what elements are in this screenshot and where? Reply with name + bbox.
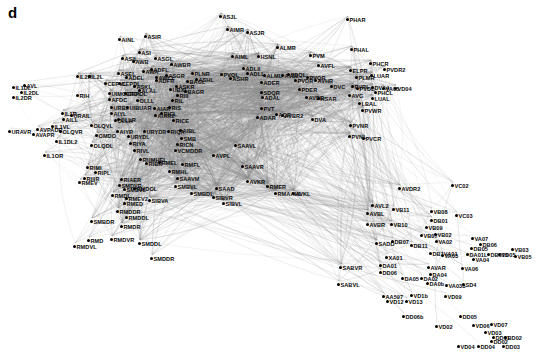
node-label: IL1OR [47, 154, 64, 160]
graph-node[interactable]: AVBR [366, 217, 385, 233]
graph-node[interactable]: HSAR [317, 91, 337, 107]
node-label: SABVL [341, 283, 360, 289]
graph-node[interactable]: AVDR2 [398, 181, 420, 197]
node-label: SAAVR [245, 165, 264, 171]
node-label: RMDR [124, 225, 141, 231]
graph-node[interactable]: RMDR [120, 219, 140, 235]
graph-node[interactable]: ASIR [144, 29, 161, 45]
node-label: DVA [315, 118, 327, 124]
graph-node[interactable]: SABVR [339, 260, 362, 276]
node-label: SMDDL [142, 242, 162, 248]
graph-node[interactable]: DD06 [379, 265, 397, 281]
node-label: SMBDR [94, 220, 115, 226]
node-layer: ASJLAIMRASJRPHARAINLASIRALMRPVMPHALAIMLH… [0, 0, 539, 352]
graph-node[interactable]: RMHL [168, 164, 188, 180]
graph-node[interactable]: IL1OR [43, 148, 63, 164]
node-label: AVBR [370, 223, 386, 229]
graph-node[interactable]: DD06b [402, 309, 423, 325]
node-label: SIBVA [152, 199, 169, 205]
graph-node[interactable]: ASHR [229, 71, 249, 87]
graph-node[interactable]: PVWR [361, 103, 381, 119]
node-label: DD06b [406, 315, 424, 321]
graph-node[interactable]: ALMR [276, 40, 296, 56]
graph-node[interactable]: VD12 [386, 294, 404, 310]
node-label: URAIL [74, 114, 91, 120]
graph-node[interactable]: SIBVA [148, 193, 168, 209]
node-label: SABVR [343, 266, 363, 272]
graph-node[interactable]: ADAR [256, 110, 276, 126]
node-label: RMD [91, 239, 104, 245]
graph-node[interactable]: SAAVL [234, 138, 256, 154]
graph-node[interactable]: SMBDR [90, 214, 114, 230]
graph-node[interactable]: VC03 [455, 208, 473, 224]
graph-node[interactable]: VC02 [451, 178, 469, 194]
node-label: VC02 [455, 184, 469, 190]
graph-node[interactable]: DVA [311, 112, 326, 128]
graph-node[interactable]: SD4 [462, 277, 477, 293]
graph-node[interactable]: SIBVL [222, 196, 242, 212]
graph-node[interactable]: SABVL [337, 277, 360, 293]
node-label: VB10 [394, 223, 408, 229]
node-label: SAAVL [238, 144, 257, 150]
node-label: PVCR [366, 137, 382, 143]
graph-node[interactable]: VD02 [435, 319, 453, 335]
graph-node[interactable]: PHAR [346, 12, 366, 28]
graph-node[interactable]: VB05 [514, 249, 532, 265]
node-label: IL2L [92, 75, 104, 81]
graph-node[interactable]: AQR [275, 107, 291, 123]
graph-node[interactable]: BAGR [184, 84, 204, 100]
node-label: DA05 [405, 277, 420, 283]
graph-node[interactable]: SDQL [287, 67, 306, 83]
graph-node[interactable]: RMEV [78, 175, 98, 191]
node-label: OLLR [121, 118, 136, 124]
node-label: RMEV [82, 181, 98, 187]
graph-node[interactable]: PHAL [350, 42, 369, 58]
node-label: VD09 [448, 295, 462, 301]
graph-node[interactable]: IL2L [88, 69, 103, 85]
node-label: AIMR [230, 28, 245, 34]
graph-node[interactable]: AVPL [212, 148, 230, 164]
graph-node[interactable]: AIAR2 [154, 108, 175, 124]
graph-node[interactable]: PVCR [362, 131, 381, 147]
graph-node[interactable]: DA0b [426, 276, 444, 292]
node-label: SD4 [466, 283, 477, 289]
node-label: AINL [122, 38, 135, 44]
graph-node[interactable]: RMDL [111, 188, 131, 204]
graph-node[interactable]: SAAVR [241, 159, 264, 175]
graph-node[interactable]: VD04 [457, 339, 475, 352]
node-label: VC03 [459, 214, 473, 220]
graph-node[interactable]: RMD [87, 233, 103, 249]
graph-node[interactable]: VA06 [461, 261, 478, 277]
graph-node[interactable]: URAIL [70, 108, 91, 124]
graph-node[interactable]: DD02 [490, 334, 508, 350]
node-label: OMDO [99, 134, 117, 140]
graph-node[interactable]: OMDO [95, 128, 116, 144]
node-label: RMAAHL [278, 192, 303, 198]
graph-node[interactable]: VD13 [405, 294, 423, 310]
graph-node[interactable]: RIH [76, 88, 89, 104]
node-label: URAVR [12, 130, 32, 136]
graph-node[interactable]: DB11 [410, 238, 428, 254]
graph-node[interactable]: URAVR [8, 124, 31, 140]
graph-node[interactable]: SMDDL [138, 236, 162, 252]
graph-node[interactable]: AINL [118, 32, 135, 48]
graph-node[interactable]: AIMR [226, 22, 244, 38]
node-label: PHAR [350, 18, 366, 24]
graph-node[interactable]: IL2DR [12, 90, 32, 106]
graph-node[interactable]: SMDDR [150, 251, 174, 267]
node-label: DD06 [383, 271, 398, 277]
node-label: PHAL [354, 48, 369, 54]
graph-node[interactable]: AVKR [246, 174, 265, 190]
graph-node[interactable]: SMBVL [174, 179, 197, 195]
node-label: VA06 [465, 267, 479, 273]
node-label: PVDR2 [387, 68, 406, 74]
node-label: AQR [279, 113, 292, 119]
graph-node[interactable]: ASJR [246, 25, 265, 41]
graph-node[interactable]: VB11 [392, 202, 409, 218]
graph-node[interactable]: VD09 [444, 289, 462, 305]
graph-node[interactable]: DA05 [401, 271, 419, 287]
node-label: UIBUAR [130, 106, 152, 112]
graph-node[interactable]: VB10 [390, 217, 408, 233]
node-label: OLQDL [94, 144, 114, 150]
graph-node[interactable]: RMAAHL [274, 186, 302, 202]
